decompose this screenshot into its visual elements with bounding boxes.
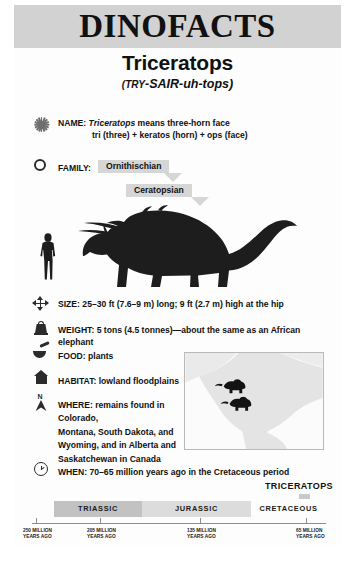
- fact-food-value: plants: [88, 351, 113, 361]
- scale-illustration: [22, 203, 333, 291]
- fact-name-genus: Triceratops: [89, 118, 136, 128]
- compass-north-letter: N: [38, 393, 43, 400]
- fact-size: SIZE: 25–30 ft (7.6–9 m) long; 9 ft (2.7…: [58, 298, 333, 310]
- timeline-period-cretaceous: CRETACEOUS: [251, 501, 326, 517]
- fact-habitat: HABITAT: lowland floodplains: [58, 375, 179, 387]
- timeline-tick: [100, 518, 101, 524]
- fact-habitat-label: HABITAT:: [58, 376, 96, 386]
- family-arrow-1: [164, 173, 182, 182]
- timeline-highlight-label: TRICERATOPS: [265, 481, 333, 491]
- page-title: DINOFACTS: [14, 6, 341, 47]
- compass-north-icon: N: [34, 394, 54, 416]
- fact-food: FOOD: plants: [58, 350, 113, 362]
- fact-name-etymology: tri (three) + keratos (horn) + ops (face…: [58, 129, 318, 141]
- fact-where-line2: Montana, South Dakota, and: [58, 426, 178, 439]
- timeline-date-205: 205 MILLION YEARS AGO: [87, 528, 116, 540]
- human-scale-silhouette: [40, 233, 55, 279]
- triceratops-silhouette: [78, 205, 297, 287]
- timeline-date-135: 135 MILLION YEARS AGO: [187, 528, 216, 540]
- mortar-bowl-icon: [33, 345, 53, 365]
- fact-weight-label: WEIGHT:: [58, 325, 94, 335]
- fact-where-label: WHERE:: [58, 400, 93, 410]
- dinofacts-card: DINOFACTS Triceratops (TRY-SAIR-uh-tops)…: [14, 5, 341, 545]
- timeline-date-65: 65 MILLION YEARS AGO: [296, 528, 325, 540]
- family-level-1: Ornithischian: [98, 160, 169, 173]
- fact-weight-value: 5 tons (4.5 tonnes)—about the same as an…: [58, 325, 300, 347]
- fact-where-line4: Saskatchewan in Canada: [58, 453, 178, 466]
- fact-family-label: FAMILY:: [58, 162, 91, 174]
- family-level-2: Ceratopsian: [126, 184, 192, 197]
- timeline-date-250: 250 MILLION YEARS AGO: [23, 528, 52, 540]
- fact-food-label: FOOD:: [58, 351, 86, 361]
- geologic-timeline: TRICERATOPS TRIASSIC JURASSIC CRETACEOUS…: [14, 475, 341, 545]
- starburst-icon: [34, 117, 54, 137]
- fact-habitat-value: lowland floodplains: [99, 376, 179, 386]
- timeline-bar: TRIASSIC JURASSIC CRETACEOUS: [54, 501, 326, 517]
- fact-name-label: NAME:: [58, 118, 86, 128]
- fact-size-label: SIZE:: [58, 299, 80, 309]
- fact-where: WHERE: remains found in Colorado, Montan…: [58, 399, 178, 466]
- four-way-arrow-icon: [32, 296, 52, 316]
- timeline-period-jurassic: JURASSIC: [142, 501, 251, 517]
- timeline-tick: [36, 518, 37, 524]
- pronunciation-remainder: -SAIR-uh-tops): [145, 77, 233, 91]
- timeline-tick: [306, 518, 307, 524]
- fact-name-meaning: means three-horn face: [135, 118, 230, 128]
- timeline-axis: [32, 523, 326, 524]
- species-name: Triceratops: [14, 51, 341, 75]
- fact-name: NAME: Triceratops means three-horn face …: [58, 117, 318, 142]
- species-pronunciation: (TRY-SAIR-uh-tops): [14, 77, 341, 91]
- north-america-range-map: [184, 352, 324, 450]
- map-graphic: [185, 353, 323, 449]
- house-icon: [34, 370, 54, 390]
- timeline-period-triassic: TRIASSIC: [54, 501, 142, 517]
- circle-icon: [34, 159, 54, 179]
- fact-size-value: 25–30 ft (7.6–9 m) long; 9 ft (2.7 m) hi…: [82, 299, 284, 309]
- pronunciation-syllable-try: TRY: [125, 79, 145, 90]
- fact-where-line3: Wyoming, and in Alberta and: [58, 439, 178, 452]
- fact-weight: WEIGHT: 5 tons (4.5 tonnes)—about the sa…: [58, 324, 333, 349]
- weight-icon: [34, 320, 54, 340]
- timeline-highlight-marker: [299, 494, 310, 499]
- timeline-tick: [200, 518, 201, 524]
